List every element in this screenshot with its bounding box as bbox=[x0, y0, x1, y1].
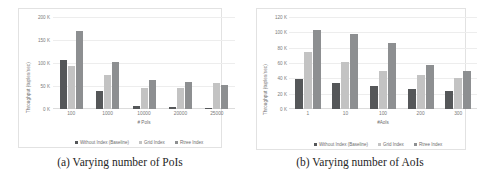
chart-b-bar bbox=[313, 30, 321, 109]
chart-a-legend-label: Without Index (Baseline) bbox=[80, 140, 129, 145]
chart-a-bar bbox=[104, 75, 111, 110]
chart-b-x-axis-title: #AoIs bbox=[289, 120, 477, 125]
chart-a-x-tick: 25000 bbox=[199, 111, 235, 116]
legend-swatch-icon bbox=[414, 143, 417, 146]
chart-a-legend-item: Rtree Index bbox=[175, 140, 203, 145]
chart-b-legend-item: Rtree Index bbox=[414, 142, 442, 147]
chart-a-x-axis-title: # PoIs bbox=[53, 120, 235, 125]
chart-a-x-axis-ticks: 1001000100002000025000 bbox=[53, 111, 235, 116]
chart-a-bar bbox=[68, 66, 75, 109]
chart-b-x-tick: 100 bbox=[364, 111, 402, 116]
chart-a-bar-group bbox=[199, 17, 235, 109]
chart-a-legend-item: Grid Index bbox=[139, 140, 165, 145]
chart-b-y-tick: 60 K bbox=[278, 61, 287, 66]
chart-b-y-tick: 80 K bbox=[278, 45, 287, 50]
chart-b-bar-groups bbox=[289, 17, 477, 109]
chart-b-bar-group bbox=[289, 17, 327, 109]
legend-swatch-icon bbox=[314, 143, 317, 146]
chart-a-bar-group bbox=[126, 17, 162, 109]
chart-b-bar-group bbox=[364, 17, 402, 109]
chart-b-bar-group bbox=[439, 17, 477, 109]
chart-b-bar-group bbox=[327, 17, 365, 109]
chart-a-bar bbox=[185, 82, 192, 109]
chart-b-bar bbox=[332, 83, 340, 109]
chart-a-y-tick: 0 K bbox=[43, 107, 50, 112]
chart-b-bar bbox=[341, 62, 349, 109]
chart-a-plot-wrap: Throughput (tuples/sec) 0 K50 K100 K150 … bbox=[19, 9, 221, 147]
chart-b-bar-group bbox=[402, 17, 440, 109]
chart-b-y-axis-ticks: 0 K20 K40 K60 K80 K100 K120 K bbox=[265, 17, 287, 109]
chart-b-legend-item: Without Index (Baseline) bbox=[314, 142, 368, 147]
chart-b-x-tick: 1 bbox=[289, 111, 327, 116]
legend-swatch-icon bbox=[75, 141, 78, 144]
chart-b-x-tick: 200 bbox=[402, 111, 440, 116]
chart-a-bar bbox=[213, 83, 220, 109]
chart-a-bar bbox=[76, 31, 83, 109]
chart-b-y-tick: 120 K bbox=[275, 15, 287, 20]
legend-swatch-icon bbox=[139, 141, 142, 144]
chart-b-legend-label: Without Index (Baseline) bbox=[319, 142, 368, 147]
chart-a-x-tick: 100 bbox=[53, 111, 89, 116]
chart-a-bar-group bbox=[89, 17, 125, 109]
chart-a-legend: Without Index (Baseline)Grid IndexRtree … bbox=[37, 140, 241, 145]
caption-a: (a) Varying number of PoIs bbox=[0, 156, 240, 168]
chart-b: Throughput (tuples/sec) 0 K20 K40 K60 K8… bbox=[256, 8, 466, 150]
chart-b-bar bbox=[304, 52, 312, 110]
chart-a-y-tick: 50 K bbox=[41, 84, 50, 89]
chart-a-bar bbox=[141, 88, 148, 109]
chart-b-bar bbox=[463, 71, 471, 109]
chart-b-y-tick: 0 K bbox=[280, 107, 287, 112]
chart-a: Throughput (tuples/sec) 0 K50 K100 K150 … bbox=[18, 8, 222, 148]
legend-swatch-icon bbox=[378, 143, 381, 146]
chart-b-bar bbox=[295, 79, 303, 109]
chart-a-bar bbox=[169, 107, 176, 109]
chart-b-x-tick: 10 bbox=[327, 111, 365, 116]
chart-b-bar bbox=[454, 78, 462, 109]
caption-b: (b) Varying number of AoIs bbox=[240, 156, 480, 168]
legend-swatch-icon bbox=[175, 141, 178, 144]
chart-a-bar-group bbox=[162, 17, 198, 109]
chart-b-bar bbox=[388, 43, 396, 109]
chart-a-bar bbox=[96, 91, 103, 109]
chart-a-y-tick: 100 K bbox=[38, 61, 50, 66]
chart-b-x-tick: 300 bbox=[439, 111, 477, 116]
chart-b-y-tick: 20 K bbox=[278, 91, 287, 96]
chart-b-plot-area bbox=[289, 17, 477, 109]
chart-a-bar bbox=[177, 88, 184, 109]
chart-a-y-tick: 150 K bbox=[38, 38, 50, 43]
chart-a-bar-group bbox=[53, 17, 89, 109]
chart-a-bar-groups bbox=[53, 17, 235, 109]
chart-b-legend-label: Grid Index bbox=[383, 142, 404, 147]
chart-b-legend-label: Rtree Index bbox=[419, 142, 442, 147]
chart-a-legend-label: Rtree Index bbox=[180, 140, 203, 145]
figure-panel-a: Throughput (tuples/sec) 0 K50 K100 K150 … bbox=[0, 0, 240, 190]
figure-panel-b: Throughput (tuples/sec) 0 K20 K40 K60 K8… bbox=[240, 0, 480, 190]
chart-b-bar bbox=[445, 91, 453, 109]
chart-a-bar bbox=[221, 85, 228, 109]
chart-a-x-tick: 1000 bbox=[89, 111, 125, 116]
chart-a-legend-label: Grid Index bbox=[144, 140, 165, 145]
chart-a-y-axis-ticks: 0 K50 K100 K150 K200 K bbox=[28, 17, 50, 109]
chart-a-plot-area bbox=[53, 17, 235, 109]
chart-a-bar bbox=[205, 108, 212, 109]
chart-a-bar bbox=[112, 62, 119, 109]
chart-a-bar bbox=[60, 60, 67, 109]
chart-b-bar bbox=[417, 75, 425, 110]
chart-a-y-tick: 200 K bbox=[38, 15, 50, 20]
chart-b-bar bbox=[426, 65, 434, 109]
chart-b-bar bbox=[370, 86, 378, 109]
chart-a-bar bbox=[149, 80, 156, 109]
chart-b-legend: Without Index (Baseline)Grid IndexRtree … bbox=[273, 142, 480, 147]
chart-a-x-tick: 20000 bbox=[162, 111, 198, 116]
chart-b-bar bbox=[350, 34, 358, 109]
chart-a-legend-item: Without Index (Baseline) bbox=[75, 140, 129, 145]
chart-b-x-axis-ticks: 110100200300 bbox=[289, 111, 477, 116]
figure-row: Throughput (tuples/sec) 0 K50 K100 K150 … bbox=[0, 0, 480, 190]
chart-b-bar bbox=[379, 71, 387, 109]
chart-b-plot-wrap: Throughput (tuples/sec) 0 K20 K40 K60 K8… bbox=[257, 9, 465, 149]
chart-b-y-tick: 40 K bbox=[278, 76, 287, 81]
chart-b-legend-item: Grid Index bbox=[378, 142, 404, 147]
chart-a-bar bbox=[133, 106, 140, 109]
chart-a-x-tick: 10000 bbox=[126, 111, 162, 116]
chart-b-bar bbox=[408, 89, 416, 109]
